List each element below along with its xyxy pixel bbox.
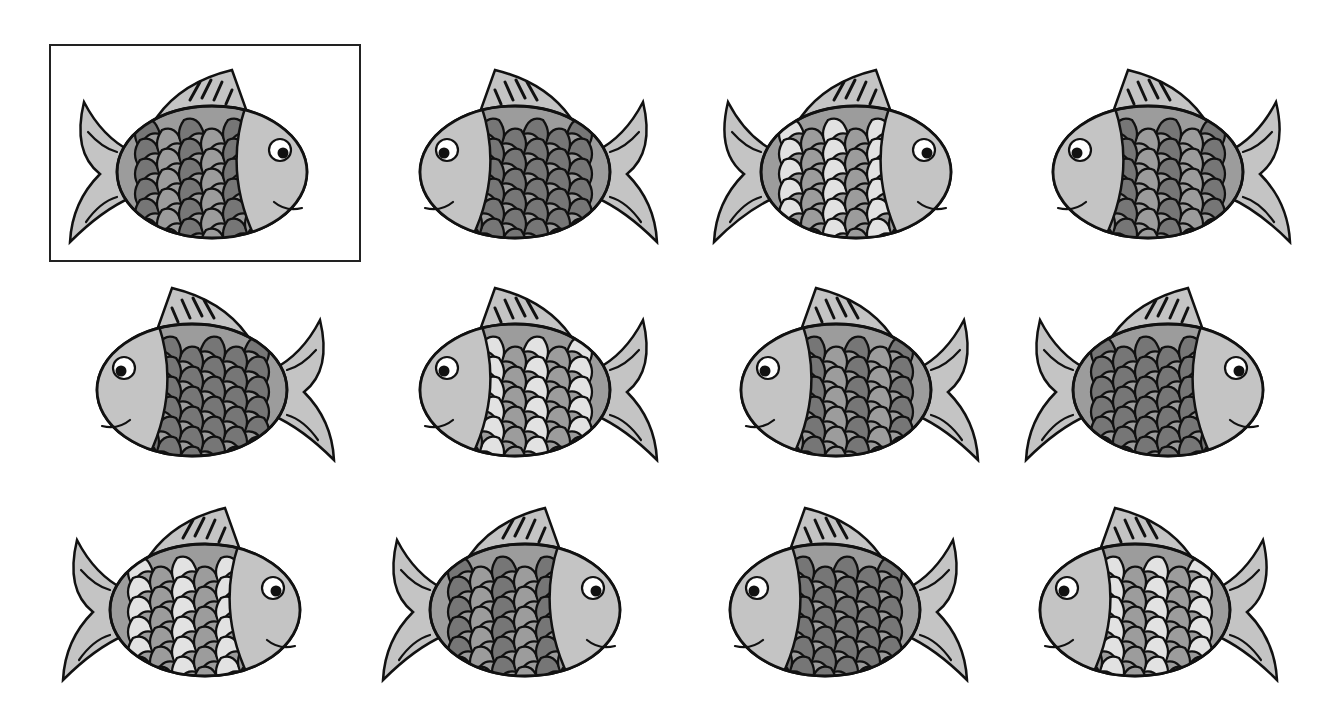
fish-option-4[interactable] (1018, 62, 1298, 252)
fish-option-8[interactable] (1018, 280, 1298, 470)
fish-option-3[interactable] (706, 62, 986, 252)
fish-option-9[interactable] (55, 500, 335, 690)
fish-option-11[interactable] (695, 500, 975, 690)
fish-option-2[interactable] (385, 62, 665, 252)
fish-option-1[interactable] (62, 62, 342, 252)
fish-option-10[interactable] (375, 500, 655, 690)
fish-option-5[interactable] (62, 280, 342, 470)
fish-option-7[interactable] (706, 280, 986, 470)
fish-option-12[interactable] (1005, 500, 1285, 690)
fish-option-6[interactable] (385, 280, 665, 470)
